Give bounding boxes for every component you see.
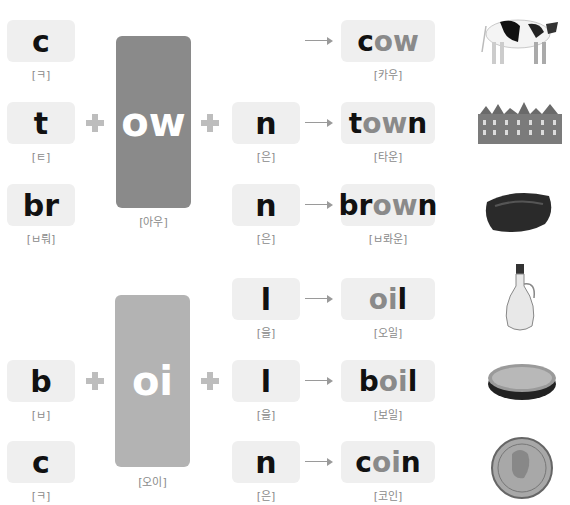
- arrow-icon: [305, 377, 333, 385]
- word-part: c: [357, 25, 374, 58]
- onset-text: t: [34, 106, 48, 141]
- coda-text: n: [255, 445, 276, 480]
- onset-text: b: [30, 364, 51, 399]
- word-part: n: [401, 446, 421, 479]
- vowel-pron: [아우]: [116, 213, 191, 229]
- vowel-box-ow: ow: [116, 36, 191, 208]
- coda-pron: [은]: [232, 230, 300, 246]
- coin-image: [490, 436, 554, 500]
- word-part: n: [418, 189, 438, 222]
- word-part: c: [355, 446, 372, 479]
- coda-box-l: l: [232, 360, 300, 402]
- word-highlight: oi: [379, 365, 408, 398]
- coda-text: n: [255, 106, 276, 141]
- brown-paint-image: [483, 188, 555, 238]
- coda-box-n: n: [232, 102, 300, 144]
- arrow-icon: [305, 37, 333, 45]
- arrow-icon: [305, 458, 333, 466]
- word-pron: [타운]: [341, 148, 435, 164]
- vowel-text: oi: [132, 358, 173, 404]
- cow-image: [478, 12, 560, 68]
- coda-pron: [은]: [232, 487, 300, 503]
- word-box-brown: brown: [341, 184, 435, 226]
- onset-box-c: c: [7, 20, 75, 62]
- word-pron: [코인]: [341, 487, 435, 503]
- boiling-pot-image: [486, 360, 558, 404]
- plus-icon: [86, 114, 104, 132]
- word-part: br: [339, 189, 373, 222]
- word-highlight: ow: [372, 189, 417, 222]
- coda-pron: [을]: [232, 406, 300, 422]
- onset-box-c: c: [7, 441, 75, 483]
- onset-text: br: [23, 188, 59, 223]
- word-pron: [오일]: [341, 324, 435, 340]
- plus-icon: [201, 372, 219, 390]
- onset-pron: [ㅂ]: [7, 406, 75, 422]
- word-box-oil: oil: [341, 278, 435, 320]
- onset-pron: [ㅌ]: [7, 148, 75, 164]
- onset-pron: [ㅂ뤄]: [7, 230, 75, 246]
- onset-box-b: b: [7, 360, 75, 402]
- word-part: l: [398, 283, 408, 316]
- plus-icon: [201, 114, 219, 132]
- oil-bottle-image: [500, 264, 542, 334]
- vowel-text: ow: [121, 99, 185, 145]
- onset-box-t: t: [7, 102, 75, 144]
- word-box-boil: boil: [341, 360, 435, 402]
- coda-box-l: l: [232, 278, 300, 320]
- word-highlight: ow: [362, 107, 407, 140]
- onset-pron: [ㅋ]: [7, 487, 75, 503]
- word-box-cow: cow: [341, 20, 435, 62]
- arrow-icon: [305, 295, 333, 303]
- word-box-town: town: [341, 102, 435, 144]
- word-highlight: oi: [372, 446, 401, 479]
- coda-box-n: n: [232, 184, 300, 226]
- coda-pron: [은]: [232, 148, 300, 164]
- onset-text: c: [32, 24, 50, 59]
- arrow-icon: [305, 201, 333, 209]
- onset-box-br: br: [7, 184, 75, 226]
- word-part: t: [349, 107, 362, 140]
- town-image: [478, 102, 562, 144]
- coda-pron: [을]: [232, 324, 300, 340]
- word-pron: [ㅂ롸운]: [341, 230, 435, 246]
- word-part: l: [408, 365, 418, 398]
- plus-icon: [86, 372, 104, 390]
- coda-text: l: [261, 364, 271, 399]
- arrow-icon: [305, 119, 333, 127]
- word-highlight: ow: [374, 25, 419, 58]
- onset-text: c: [32, 445, 50, 480]
- word-box-coin: coin: [341, 441, 435, 483]
- word-highlight: oi: [369, 283, 398, 316]
- vowel-box-oi: oi: [115, 295, 190, 467]
- word-pron: [보일]: [341, 406, 435, 422]
- onset-pron: [ㅋ]: [7, 66, 75, 82]
- coda-text: l: [261, 282, 271, 317]
- vowel-pron: [오이]: [115, 473, 190, 489]
- coda-box-n: n: [232, 441, 300, 483]
- word-part: n: [407, 107, 427, 140]
- coda-text: n: [255, 188, 276, 223]
- word-pron: [카우]: [341, 66, 435, 82]
- word-part: b: [359, 365, 379, 398]
